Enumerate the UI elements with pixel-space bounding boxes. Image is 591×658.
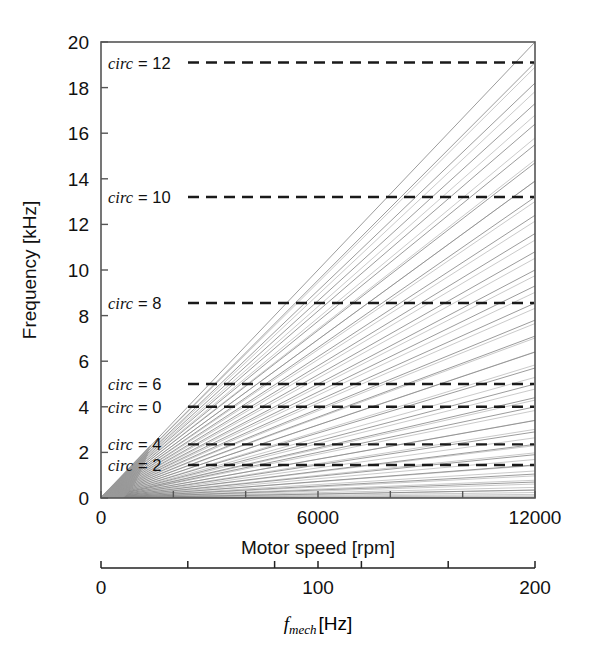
- y-tick-label: 12: [68, 214, 89, 235]
- chart-figure: circ= 12circ= 10circ= 8circ= 6circ= 0cir…: [0, 0, 591, 658]
- y-tick-label: 10: [68, 260, 89, 281]
- secondary-tick-label: 0: [96, 577, 107, 598]
- y-tick-label: 0: [78, 488, 89, 509]
- y-axis-tick-labels: 02468101214161820: [68, 32, 90, 509]
- circ-label: circ= 10: [108, 188, 171, 207]
- x-tick-label: 0: [96, 507, 107, 528]
- ray-group: [101, 42, 535, 498]
- y-axis-ticks: [101, 42, 108, 498]
- chart-svg: circ= 12circ= 10circ= 8circ= 6circ= 0cir…: [0, 0, 591, 658]
- circ-label: circ= 8: [108, 294, 161, 313]
- y-tick-label: 20: [68, 32, 89, 53]
- secondary-axis-ticks: [101, 561, 535, 568]
- y-tick-label: 4: [78, 397, 89, 418]
- ray-line: [101, 83, 535, 498]
- ray-line-dense: [101, 160, 535, 498]
- secondary-axis-title: fmech[Hz]: [284, 613, 353, 637]
- circ-label-group: circ= 12circ= 10circ= 8circ= 6circ= 0cir…: [108, 54, 171, 475]
- secondary-tick-label: 200: [519, 577, 551, 598]
- ray-line: [101, 384, 535, 498]
- circ-label: circ= 12: [108, 54, 171, 73]
- circ-label: circ= 6: [108, 375, 161, 394]
- secondary-axis-tick-labels: 0100200: [96, 577, 551, 598]
- y-tick-label: 2: [78, 442, 89, 463]
- ray-line: [101, 104, 535, 498]
- circ-label: circ= 0: [108, 398, 161, 417]
- ray-line: [101, 215, 535, 498]
- y-tick-label: 8: [78, 306, 89, 327]
- ray-line: [101, 42, 535, 498]
- y-axis-title: Frequency [kHz]: [19, 201, 40, 339]
- secondary-tick-label: 100: [302, 577, 334, 598]
- ray-line: [101, 234, 535, 498]
- x-tick-label: 12000: [509, 507, 562, 528]
- ray-line-dense: [101, 92, 535, 498]
- ray-line-dense: [101, 338, 535, 498]
- x-axis-title: Motor speed [rpm]: [241, 537, 395, 558]
- ray-line-dense: [101, 258, 535, 498]
- ray-line-dense: [101, 411, 535, 498]
- y-tick-label: 18: [68, 78, 89, 99]
- x-axis-tick-labels: 0600012000: [96, 507, 562, 528]
- y-tick-label: 16: [68, 123, 89, 144]
- ray-line-dense: [101, 181, 535, 498]
- ray-line-dense: [101, 400, 535, 498]
- dashed-line-group: [188, 63, 534, 465]
- ray-line-dense: [101, 221, 535, 498]
- x-tick-label: 6000: [297, 507, 339, 528]
- y-tick-label: 6: [78, 351, 89, 372]
- circ-label: circ= 4: [108, 435, 161, 454]
- ray-line: [101, 303, 535, 498]
- y-tick-label: 14: [68, 169, 90, 190]
